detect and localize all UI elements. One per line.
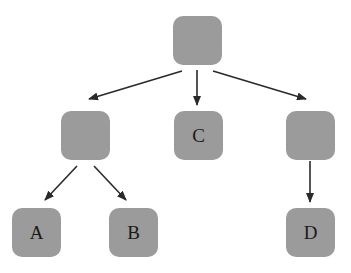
node-right — [286, 111, 335, 160]
node-a: A — [12, 208, 61, 257]
node-d: D — [286, 208, 335, 257]
node-c: C — [174, 111, 223, 160]
edge-left-to-a — [45, 166, 77, 200]
node-c-label: C — [192, 125, 205, 147]
tree-diagram: C A B D — [0, 0, 351, 273]
node-left — [61, 111, 110, 160]
edge-root-to-right — [213, 71, 306, 99]
edge-left-to-b — [94, 166, 126, 200]
edge-root-to-left — [89, 71, 182, 99]
node-b-label: B — [127, 222, 140, 244]
node-d-label: D — [304, 222, 318, 244]
node-b: B — [109, 208, 158, 257]
node-a-label: A — [30, 222, 44, 244]
node-root — [173, 16, 222, 65]
